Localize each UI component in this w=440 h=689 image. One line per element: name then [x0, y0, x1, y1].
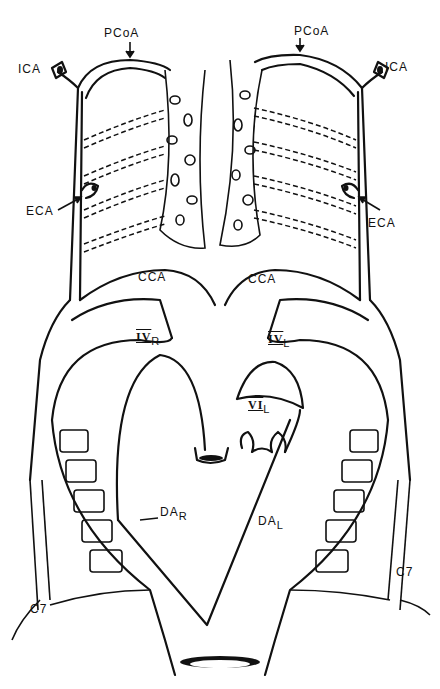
left-cerebral-loop	[52, 60, 170, 300]
label-da-left: DAL	[258, 514, 284, 528]
label-pcoa-left: PCoA	[104, 26, 139, 40]
label-arch6-left: VIL	[248, 398, 270, 413]
label-c7-left: C7	[30, 602, 47, 616]
label-arch4-left: IVL	[268, 332, 290, 347]
vessel-drawing	[0, 0, 440, 689]
common-carotids-and-arches	[30, 270, 410, 675]
label-c7-right: C7	[396, 565, 413, 579]
right-cerebral-loop	[254, 55, 388, 300]
label-da-right: DAR	[160, 505, 188, 519]
label-ica-right: ICA	[385, 60, 408, 74]
rete-network	[160, 60, 262, 248]
label-eca-right: ECA	[368, 216, 396, 230]
diagram-canvas: PCoA PCoA ICA ICA ECA ECA CCA CCA IVR IV…	[0, 0, 440, 689]
pointer-arrows	[58, 38, 380, 520]
label-cca-right: CCA	[248, 272, 276, 286]
label-eca-left: ECA	[26, 204, 54, 218]
label-cca-left: CCA	[138, 270, 166, 284]
label-arch4-right: IVR	[136, 330, 160, 345]
label-pcoa-right: PCoA	[294, 24, 329, 38]
label-ica-left: ICA	[18, 62, 41, 76]
